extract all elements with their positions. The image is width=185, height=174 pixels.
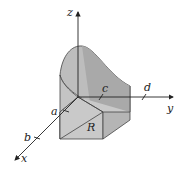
tick-label-a: a bbox=[51, 105, 58, 118]
x-axis-label: x bbox=[21, 152, 28, 165]
region-label-R: R bbox=[86, 121, 95, 134]
solid-region-diagram: z y x a b c d R bbox=[0, 0, 185, 174]
y-axis-label: y bbox=[166, 102, 174, 115]
tick-label-c: c bbox=[102, 82, 108, 95]
box-right-face bbox=[103, 112, 130, 139]
tick-label-b: b bbox=[24, 131, 31, 144]
tick-label-d: d bbox=[144, 81, 151, 94]
z-axis-label: z bbox=[66, 6, 73, 19]
